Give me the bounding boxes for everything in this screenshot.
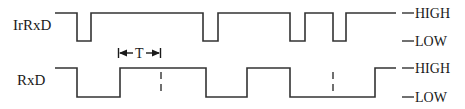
level-label-rxd-high: HIGH [415, 61, 450, 76]
level-legend: HIGH LOW HIGH LOW [402, 6, 450, 105]
signal-label-rxd: RxD [17, 72, 46, 88]
level-label-irrxd-low: LOW [415, 34, 448, 49]
level-label-rxd-low: LOW [415, 90, 448, 105]
rxd-waveform [55, 68, 396, 97]
timing-diagram: IrRxD RxD HIGH LOW HIGH LOW T [0, 0, 465, 109]
arrow-right-icon [152, 50, 160, 57]
period-label: T [135, 46, 144, 61]
arrow-left-icon [119, 50, 127, 57]
level-label-irrxd-high: HIGH [415, 6, 450, 21]
irrxd-waveform [55, 13, 396, 41]
period-marker: T [119, 46, 161, 61]
signal-label-irrxd: IrRxD [13, 17, 51, 33]
